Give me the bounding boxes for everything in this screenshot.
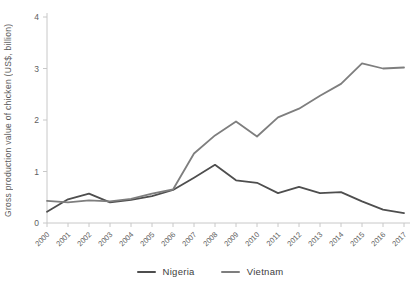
- x-tick-label: 2004: [117, 230, 135, 248]
- chart-area: 0123420002001200220032004200520062007200…: [0, 0, 420, 252]
- figure: 0123420002001200220032004200520062007200…: [0, 0, 420, 284]
- legend: Nigeria Vietnam: [0, 266, 420, 277]
- x-tick-label: 2007: [180, 230, 198, 248]
- nigeria-legend-label: Nigeria: [163, 266, 195, 277]
- vietnam-line: [47, 63, 404, 202]
- y-tick-label: 1: [34, 167, 39, 177]
- y-axis-title: Gross production value of chicken (US$, …: [3, 0, 13, 240]
- x-tick-label: 2009: [222, 230, 240, 248]
- x-tick-label: 2010: [243, 230, 261, 248]
- vietnam-line-swatch: [221, 271, 240, 273]
- x-tick-label: 2003: [96, 230, 114, 248]
- vietnam-legend-label: Vietnam: [247, 266, 284, 277]
- y-tick-label: 2: [34, 115, 39, 125]
- x-tick-label: 2014: [327, 230, 345, 248]
- x-tick-label: 2002: [75, 230, 93, 248]
- x-tick-label: 2011: [265, 230, 283, 248]
- x-tick-label: 2012: [285, 230, 303, 248]
- x-tick-label: 2016: [369, 230, 387, 248]
- y-tick-label: 4: [34, 12, 39, 22]
- nigeria-line-swatch: [137, 271, 156, 273]
- x-tick-label: 2001: [54, 230, 72, 248]
- x-tick-label: 2017: [390, 230, 408, 248]
- nigeria-line: [47, 165, 404, 213]
- y-tick-label: 3: [34, 64, 39, 74]
- y-tick-label: 0: [34, 218, 39, 228]
- legend-item-nigeria: Nigeria: [137, 266, 195, 277]
- x-tick-label: 2015: [348, 230, 366, 248]
- x-tick-label: 2008: [201, 230, 219, 248]
- x-tick-label: 2000: [33, 230, 51, 248]
- chart-svg: 0123420002001200220032004200520062007200…: [0, 0, 420, 252]
- x-tick-label: 2013: [306, 230, 324, 248]
- x-tick-label: 2005: [138, 230, 156, 248]
- x-tick-label: 2006: [159, 230, 177, 248]
- legend-item-vietnam: Vietnam: [221, 266, 284, 277]
